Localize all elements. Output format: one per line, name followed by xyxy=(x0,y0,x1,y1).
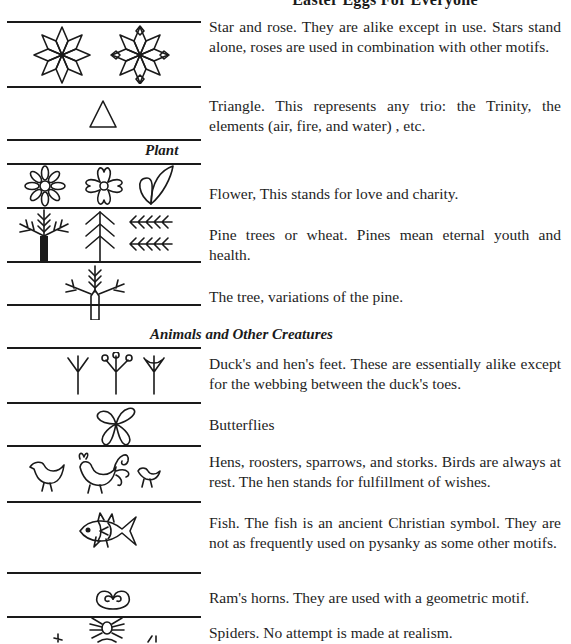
divider xyxy=(7,139,201,141)
motif-description-birds: Hens, roosters, sparrows, and storks. Bi… xyxy=(209,452,561,492)
motif-description-pine: Pine trees or wheat. Pines mean eternal … xyxy=(209,225,561,265)
bird-icon xyxy=(24,447,174,499)
motif-description-star-rose: Star and rose. They are alike except in … xyxy=(209,17,561,57)
tree-icon xyxy=(60,264,130,320)
motif-description-feet: Duck's and hen's feet. These are essenti… xyxy=(209,354,561,394)
motif-description-triangle: Triangle. This represents any trio: the … xyxy=(209,96,561,136)
star-rose-icon xyxy=(30,24,180,84)
triangle-icon xyxy=(88,99,118,129)
divider xyxy=(7,21,201,23)
section-heading-plant: Plant xyxy=(145,142,178,159)
flower-icon xyxy=(22,164,182,208)
butterfly-icon xyxy=(94,402,138,446)
bird-feet-icon xyxy=(62,352,182,396)
divider xyxy=(7,501,201,503)
fish-icon xyxy=(78,511,140,551)
rams-horns-icon xyxy=(93,585,133,611)
motif-description-flower: Flower, This stands for love and charity… xyxy=(209,184,561,204)
motif-description-spiders: Spiders. No attempt is made at realism. xyxy=(209,623,561,643)
spider-icon xyxy=(48,618,168,644)
motif-description-butterfly: Butterflies xyxy=(209,415,561,435)
pine-tree-icon xyxy=(14,208,184,262)
motif-description-tree: The tree, variations of the pine. xyxy=(209,287,561,307)
motif-description-rams-horns: Ram's horns. They are used with a geomet… xyxy=(209,588,561,608)
divider xyxy=(7,347,201,349)
divider xyxy=(7,572,201,574)
section-heading-animals: Animals and Other Creatures xyxy=(150,326,333,343)
page-title: Easter Eggs For Everyone xyxy=(220,0,550,9)
motif-description-fish: Fish. The fish is an ancient Christian s… xyxy=(209,513,561,553)
divider xyxy=(7,86,201,88)
